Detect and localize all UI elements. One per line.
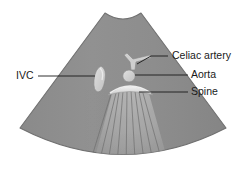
structure-aorta xyxy=(123,70,135,82)
label-ivc: IVC xyxy=(16,69,34,81)
label-aorta: Aorta xyxy=(191,68,216,80)
aorta-lumen xyxy=(123,70,135,82)
label-celiac-artery: Celiac artery xyxy=(172,49,232,61)
ultrasound-figure: Celiac artery Aorta Spine IVC xyxy=(0,0,248,179)
label-spine: Spine xyxy=(191,85,218,97)
ultrasound-sector-diagram: Celiac artery Aorta Spine IVC xyxy=(0,0,248,179)
